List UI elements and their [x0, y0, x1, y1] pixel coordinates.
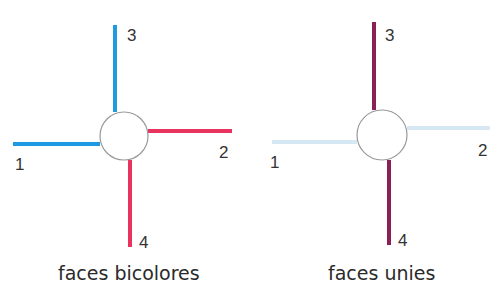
label-4: 4 — [398, 231, 407, 250]
label-3: 3 — [127, 26, 136, 45]
diagram-unies: 3 1 2 4 faces unies — [270, 22, 490, 284]
center-node — [357, 110, 407, 160]
label-1: 1 — [270, 153, 279, 172]
label-3: 3 — [385, 26, 394, 45]
label-2: 2 — [478, 141, 487, 160]
center-node — [100, 112, 148, 160]
label-4: 4 — [139, 233, 148, 252]
diagram-bicolores: 3 1 2 4 faces bicolores — [13, 25, 232, 284]
caption-unies: faces unies — [328, 262, 435, 284]
label-2: 2 — [219, 143, 228, 162]
diagram-canvas: 3 1 2 4 faces bicolores 3 1 2 4 faces un… — [0, 0, 503, 296]
label-1: 1 — [15, 155, 24, 174]
caption-bicolores: faces bicolores — [58, 262, 200, 284]
